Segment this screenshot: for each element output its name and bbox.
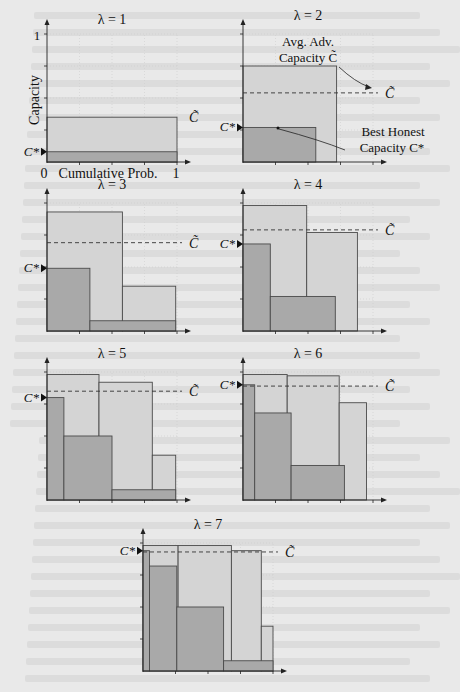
c-tilde-label: C̃	[385, 223, 395, 238]
honest-bar	[47, 268, 90, 331]
x-axis-arrow-icon	[185, 329, 191, 334]
panel-lambda-6: C̃C*λ = 6	[220, 346, 395, 503]
honest-bar	[47, 152, 177, 162]
x-axis-arrow-icon	[381, 329, 387, 334]
c-star-marker-icon	[41, 394, 47, 402]
c-star-label: C*	[120, 543, 136, 558]
honest-bar	[90, 321, 176, 331]
c-star-marker-icon	[137, 547, 143, 555]
annotation-best-honest-line2: Capacity C*	[360, 140, 425, 155]
honest-bar	[112, 490, 176, 500]
x-tick-label-1: 1	[173, 166, 180, 181]
honest-bar	[143, 551, 150, 671]
panel-title: λ = 2	[294, 8, 323, 23]
annotation-best-honest-line1: Best Honest	[361, 124, 425, 139]
panel-title: λ = 7	[194, 517, 223, 532]
honest-bar	[150, 566, 177, 671]
y-axis-arrow-icon	[45, 357, 50, 363]
honest-bar	[243, 127, 316, 162]
honest-bar	[177, 607, 224, 671]
panel-title: λ = 5	[98, 346, 127, 361]
x-axis-arrow-icon	[281, 669, 287, 674]
honest-bar	[64, 436, 112, 500]
c-star-marker-icon	[237, 381, 243, 389]
panel-lambda-4: C̃C*λ = 4	[220, 177, 395, 334]
y-axis-arrow-icon	[241, 357, 246, 363]
honest-bar	[243, 244, 270, 331]
c-star-label: C*	[24, 144, 40, 159]
y-axis-arrow-icon	[141, 528, 146, 534]
c-star-label: C*	[220, 119, 236, 134]
c-star-label: C*	[24, 260, 40, 275]
x-axis-arrow-icon	[381, 498, 387, 503]
panel-lambda-3: C̃C*λ = 3	[24, 177, 199, 334]
honest-bar	[243, 385, 255, 500]
x-tick-label-0: 0	[41, 166, 48, 181]
c-star-marker-icon	[41, 264, 47, 272]
panel-lambda-5: C̃C*λ = 5	[24, 346, 199, 503]
x-axis-arrow-icon	[185, 160, 191, 165]
y-axis-arrow-icon	[45, 19, 50, 25]
y-axis-label: Capacity	[27, 75, 42, 125]
honest-bar	[270, 296, 335, 331]
c-star-marker-icon	[237, 240, 243, 248]
honest-bar	[224, 661, 273, 671]
panel-lambda-7: C̃C*λ = 7	[120, 517, 295, 674]
c-tilde-label: C̃	[189, 110, 199, 125]
c-tilde-label: C̃	[385, 86, 395, 101]
arrowhead-icon	[365, 84, 372, 90]
y-axis-arrow-icon	[45, 188, 50, 194]
panel-title: λ = 4	[294, 177, 323, 192]
honest-bar	[291, 465, 344, 500]
x-axis-arrow-icon	[381, 160, 387, 165]
c-star-marker-icon	[41, 148, 47, 156]
x-axis-label: Cumulative Prob.	[59, 166, 158, 181]
adversarial-bar	[231, 551, 261, 671]
annotation-avg-adv-line2: Capacity C̃	[279, 50, 337, 65]
honest-bar	[47, 398, 64, 500]
c-tilde-label: C̃	[385, 379, 395, 394]
panel-title: λ = 6	[294, 346, 323, 361]
y-axis-arrow-icon	[241, 19, 246, 25]
x-axis-arrow-icon	[185, 498, 191, 503]
honest-bar	[255, 413, 291, 500]
panel-title: λ = 1	[98, 12, 127, 27]
c-tilde-label: C̃	[189, 235, 199, 250]
annotation-avg-adv-line1: Avg. Adv.	[282, 34, 334, 49]
c-star-label: C*	[220, 377, 236, 392]
annotation-arrow-avg-adv	[339, 67, 369, 87]
y-axis-arrow-icon	[241, 188, 246, 194]
c-star-label: C*	[220, 236, 236, 251]
y-tick-label-1: 1	[34, 28, 41, 43]
c-tilde-label: C̃	[285, 545, 295, 560]
c-tilde-label: C̃	[189, 384, 199, 399]
panel-lambda-1: C̃C*λ = 1	[24, 12, 199, 165]
c-star-label: C*	[24, 390, 40, 405]
